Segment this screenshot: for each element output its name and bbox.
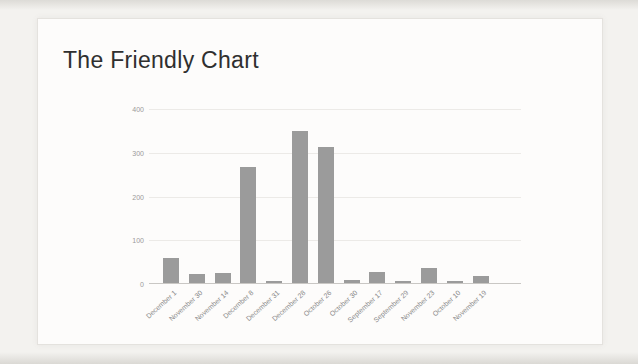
bar-5 [292,131,308,283]
gridline-300 [149,153,521,154]
gridline-100 [149,240,521,241]
bar-7 [344,280,360,283]
y-tick-label-400: 400 [132,106,144,113]
page-card: The Friendly Chart 0100200300400December… [37,18,603,345]
bar-8 [369,272,385,283]
y-tick-label-100: 100 [132,237,144,244]
bar-chart-plot-area: 0100200300400December 1November 30Novemb… [149,109,521,284]
chart-title: The Friendly Chart [63,47,259,74]
y-tick-label-0: 0 [140,281,144,288]
gridline-200 [149,197,521,198]
y-tick-label-300: 300 [132,149,144,156]
x-axis-line [149,283,521,284]
bar-0 [163,258,179,283]
bar-10 [421,268,437,283]
y-tick-label-200: 200 [132,193,144,200]
bar-4 [266,281,282,283]
bar-6 [318,147,334,283]
photographed-page: { "page": { "title": "The Friendly Chart… [0,0,638,364]
bar-1 [189,274,205,283]
bar-9 [395,281,411,283]
gridline-400 [149,109,521,110]
bar-12 [473,276,489,283]
bar-3 [240,167,256,283]
bar-11 [447,281,463,283]
bar-2 [215,273,231,284]
